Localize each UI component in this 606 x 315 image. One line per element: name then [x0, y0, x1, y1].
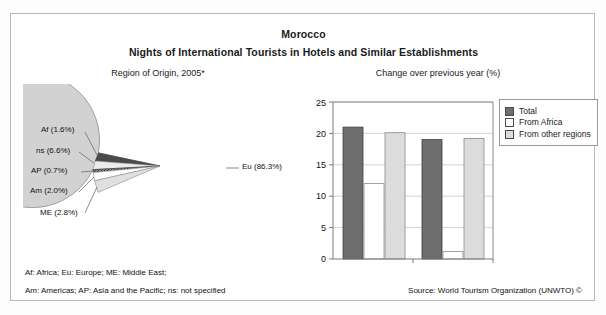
bar-chart-legend: Total From Africa From other regions [499, 99, 598, 146]
page-title: Morocco [11, 28, 596, 40]
legend-item-total: Total [505, 107, 591, 116]
legend-swatch-from-other-regions [505, 130, 514, 139]
bar-chart-y-ticks [329, 102, 333, 259]
bar-africa-2004 [364, 184, 384, 259]
svg-text:10: 10 [316, 191, 326, 201]
svg-text:0: 0 [321, 254, 326, 264]
pie-label-eu: Eu (86.3%) [242, 162, 282, 171]
bar-other-2005 [464, 138, 484, 259]
svg-text:20: 20 [316, 129, 326, 139]
pie-label-af: Af (1.6%) [41, 125, 74, 134]
page-subtitle: Nights of International Tourists in Hote… [11, 46, 596, 58]
footnote-line-2: Am: Americas; AP: Asia and the Pacific; … [25, 286, 226, 295]
legend-item-from-other-regions: From other regions [505, 130, 591, 139]
bar-chart-y-tick-labels: 0 5 10 15 20 25 [316, 98, 326, 265]
legend-label-from-other-regions: From other regions [519, 130, 591, 139]
legend-swatch-total [505, 107, 514, 116]
legend-item-from-africa: From Africa [505, 118, 591, 127]
pie-label-ap: AP (0.7%) [31, 166, 67, 175]
bar-chart: 0 5 10 15 20 25 2004/2003 2005*/2004 Tot… [303, 82, 588, 262]
pie-label-me: ME (2.8%) [40, 208, 78, 217]
bar-chart-title: Change over previous year (%) [303, 68, 573, 78]
legend-label-from-africa: From Africa [519, 118, 562, 127]
pie-label-ns: ns (6.6%) [36, 146, 70, 155]
bar-other-2004 [385, 133, 405, 259]
chart-page: Morocco Nights of International Tourists… [0, 0, 606, 315]
footnote-line-1: Af: Africa; Eu: Europe; ME: Middle East; [25, 268, 166, 277]
source-note: Source: World Tourism Organization (UNWT… [408, 286, 582, 295]
svg-text:15: 15 [316, 160, 326, 170]
legend-label-total: Total [519, 107, 537, 116]
pie-chart-title: Region of Origin, 2005* [33, 68, 283, 78]
bar-chart-x-ticks [413, 259, 493, 263]
svg-text:5: 5 [321, 223, 326, 233]
bar-total-2005 [422, 140, 442, 259]
svg-text:25: 25 [316, 98, 326, 108]
bar-total-2004 [343, 127, 363, 259]
page-frame: Morocco Nights of International Tourists… [10, 13, 595, 301]
pie-chart: Af (1.6%) ns (6.6%) AP (0.7%) Am (2.0%) … [23, 84, 298, 249]
bar-africa-2005 [443, 252, 463, 260]
pie-label-am: Am (2.0%) [30, 186, 68, 195]
legend-swatch-from-africa [505, 118, 514, 127]
